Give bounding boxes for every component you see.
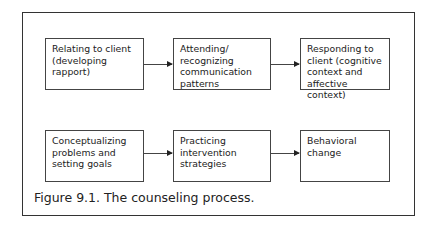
arrow-n1-n2 (144, 64, 172, 65)
arrow-n4-n5 (144, 153, 172, 154)
node-attending: Attending/ recognizing communication pat… (173, 38, 271, 90)
node-practicing: Practicing intervention strategies (173, 130, 271, 182)
figure-caption: Figure 9.1. The counseling process. (34, 190, 255, 205)
node-behavioral-change: Behavioral change (300, 130, 390, 182)
node-relating-to-client: Relating to client (developing rapport) (45, 38, 144, 90)
node-conceptualizing: Conceptualizing problems and setting goa… (45, 130, 144, 182)
node-responding: Responding to client (cognitive context … (300, 38, 390, 90)
arrow-n2-n3 (271, 64, 299, 65)
arrow-n5-n6 (271, 153, 299, 154)
